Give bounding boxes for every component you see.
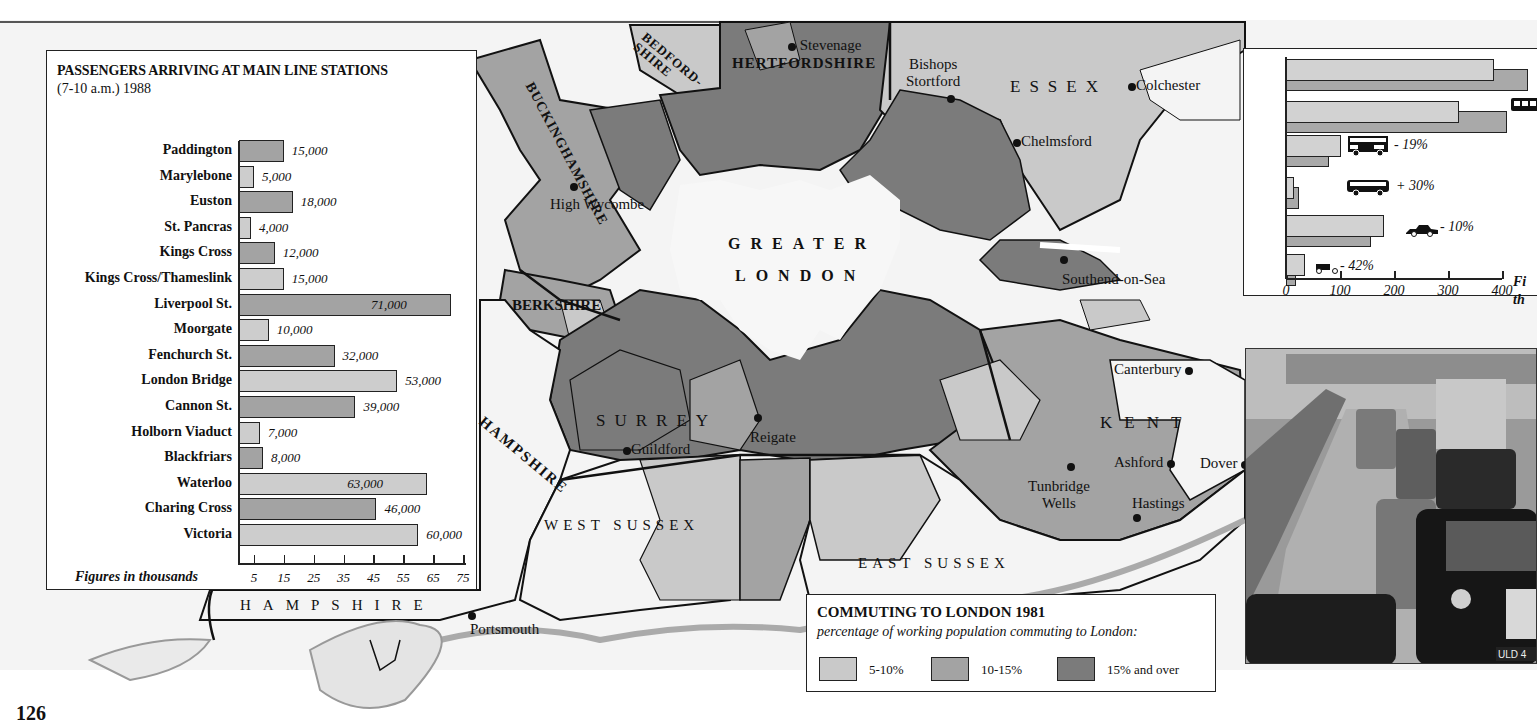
- station-label: Kings Cross/Thameslink: [85, 270, 232, 286]
- axis-tick-label: 65: [427, 570, 440, 586]
- axis-tick: [344, 555, 346, 564]
- chart-title: PASSENGERS ARRIVING AT MAIN LINE STATION…: [57, 63, 388, 78]
- station-bar: [239, 294, 451, 316]
- town-dot-icon: [1060, 256, 1068, 264]
- county-label-east-sussex: EAST SUSSEX: [858, 556, 1010, 571]
- station-bar: [239, 166, 254, 188]
- town-dot-icon: [947, 95, 955, 103]
- map-legend: COMMUTING TO LONDON 1981 percentage of w…: [806, 594, 1216, 692]
- chart-subtitle: (7-10 a.m.) 1988: [57, 81, 151, 97]
- town-dot-icon: [1067, 463, 1075, 471]
- town-stevenage: Stevenage: [788, 38, 861, 53]
- axis-tick-label: 25: [307, 570, 320, 586]
- station-label: Kings Cross: [160, 244, 232, 260]
- transport-bar-earlier: [1286, 254, 1305, 276]
- transport-bar-earlier: [1286, 101, 1459, 123]
- town-name-line1: Tunbridge: [1028, 478, 1090, 495]
- town-canterbury: Canterbury: [1114, 362, 1193, 377]
- car-change-label: - 10%: [1440, 219, 1474, 235]
- town-dot-icon: [1128, 83, 1136, 91]
- table-row: Blackfriars8,000: [47, 447, 478, 469]
- county-label-essex: ESSEX: [1010, 78, 1107, 95]
- value-label: 12,000: [283, 245, 319, 261]
- town-name: Guildford: [631, 441, 690, 457]
- table-row: London Bridge53,000: [47, 370, 478, 392]
- table-row: Paddington15,000: [47, 140, 478, 162]
- transport-chart-panel: 0100200300400 - 19% + 30% - 10% - 42% Fi…: [1243, 48, 1537, 296]
- value-label: 15,000: [292, 143, 328, 159]
- town-guildford: Guildford: [623, 442, 690, 457]
- station-label: Charing Cross: [145, 500, 232, 516]
- axis-tick: [314, 555, 316, 564]
- axis-tick-label: 400: [1492, 283, 1513, 299]
- station-label: Blackfriars: [164, 449, 232, 465]
- axis-tick-label: 35: [337, 570, 350, 586]
- station-bar: [239, 524, 418, 546]
- value-label: 15,000: [292, 271, 328, 287]
- table-row: Kings Cross/Thameslink15,000: [47, 268, 478, 290]
- station-label: Victoria: [184, 526, 232, 542]
- legend-label: 15% and over: [1107, 662, 1179, 678]
- value-label: 7,000: [268, 425, 297, 441]
- car-icon: [1406, 223, 1438, 237]
- axis-tick: [254, 555, 256, 564]
- motorcycle-icon: [1314, 262, 1340, 274]
- greater-london-label-line1: GREATER: [728, 236, 876, 252]
- table-row: Marylebone5,000: [47, 166, 478, 188]
- axis-tick-label: 15: [277, 570, 290, 586]
- county-label-berkshire: BERKSHIRE: [512, 298, 601, 313]
- legend-swatch: [1057, 657, 1095, 681]
- station-bar: [239, 268, 284, 290]
- axis-tick-label: 100: [1330, 283, 1351, 299]
- y-axis-line: [1285, 57, 1287, 279]
- town-bishops-stortford: BishopsStortford: [906, 56, 960, 89]
- train-icon: [1511, 96, 1537, 114]
- town-tunbridge-wells: TunbridgeWells: [1028, 478, 1090, 511]
- legend-swatch: [819, 657, 857, 681]
- town-name-line1: Bishops: [906, 56, 960, 73]
- town-southend: Southend-on-Sea: [1062, 272, 1165, 287]
- table-row: Holborn Viaduct7,000: [47, 422, 478, 444]
- table-row: Waterloo63,000: [47, 473, 478, 495]
- license-plate: ULD 4: [1498, 649, 1527, 660]
- double-decker-bus-icon: [1348, 136, 1388, 156]
- transport-bar-earlier: [1286, 59, 1494, 81]
- station-label: Cannon St.: [165, 398, 232, 414]
- town-dot-icon: [1167, 460, 1175, 468]
- station-bar: [239, 473, 427, 495]
- axis-tick-label: 45: [367, 570, 380, 586]
- station-label: Moorgate: [174, 321, 232, 337]
- station-bar: [239, 319, 269, 341]
- value-label: 60,000: [426, 527, 462, 543]
- town-ashford: Ashford: [1114, 455, 1175, 470]
- legend-label: 10-15%: [981, 662, 1022, 678]
- axis-tick-label: 0: [1283, 283, 1290, 299]
- table-row: Liverpool St.71,000: [47, 294, 478, 316]
- axis-tick: [1394, 271, 1396, 279]
- value-label: 53,000: [405, 373, 441, 389]
- value-label: 5,000: [262, 169, 291, 185]
- county-label-surrey: SURREY: [596, 412, 717, 429]
- traffic-photo: ULD 4: [1245, 348, 1537, 664]
- town-name: Chelmsford: [1021, 133, 1092, 149]
- motorcycle-change-label: - 42%: [1340, 258, 1374, 274]
- note-line1: Fi: [1513, 273, 1526, 291]
- x-axis-line: [239, 563, 466, 565]
- town-dot-icon: [754, 414, 762, 422]
- axis-tick: [403, 555, 405, 564]
- station-bar: [239, 447, 263, 469]
- town-portsmouth: Portsmouth: [470, 622, 539, 637]
- station-bar: [239, 498, 376, 520]
- value-label: 71,000: [371, 297, 407, 313]
- coach-change-label: + 30%: [1396, 178, 1435, 194]
- value-label: 18,000: [301, 194, 337, 210]
- town-colchester: Colchester: [1128, 78, 1200, 93]
- value-label: 8,000: [271, 450, 300, 466]
- value-label: 63,000: [347, 476, 383, 492]
- axis-tick: [1448, 271, 1450, 279]
- legend-title: COMMUTING TO LONDON 1981: [817, 604, 1045, 621]
- county-label-hertfordshire: HERTFORDSHIRE: [732, 56, 876, 71]
- axis-tick: [463, 555, 465, 564]
- axis-tick-label: 300: [1438, 283, 1459, 299]
- legend-label: 5-10%: [869, 662, 904, 678]
